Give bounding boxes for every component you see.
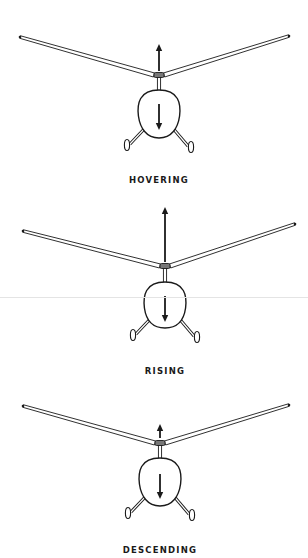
wheel-left-icon <box>124 140 129 151</box>
wheel-left-icon <box>130 330 135 341</box>
lift-arrow-up-icon-head <box>157 424 163 431</box>
lift-arrow-up-icon-head <box>156 44 162 51</box>
rotor-blade-left <box>23 405 156 445</box>
rotor-blade-left <box>20 36 155 77</box>
rotor-hub <box>154 73 164 78</box>
wheel-left-icon <box>125 508 130 519</box>
caption-descending: DESCENDING <box>6 545 308 555</box>
helicopter-rising <box>22 207 297 343</box>
rotor-blade-left <box>23 230 161 268</box>
scan-artifact-line <box>0 297 308 298</box>
rotor-blade-left-tip <box>22 405 25 408</box>
rotor-mast <box>163 268 166 283</box>
rotor-blade-right <box>169 223 295 268</box>
rotor-mast <box>157 77 160 91</box>
rotor-mast <box>158 445 161 459</box>
wheel-right-icon <box>188 142 193 153</box>
rotor-blade-right <box>163 35 289 77</box>
rotor-blade-right-tip <box>288 35 291 38</box>
rotor-blade-right-tip <box>294 223 297 226</box>
lift-arrow-up-icon-head <box>162 207 168 214</box>
caption-hovering: HOVERING <box>5 175 308 185</box>
wheel-right-icon <box>194 332 199 343</box>
helicopter-hovering <box>19 35 291 153</box>
rotor-blade-right-tip <box>288 404 291 407</box>
rotor-hub <box>160 264 170 269</box>
helicopter-descending <box>22 404 291 521</box>
rotor-blade-left-tip <box>22 230 25 233</box>
caption-rising: RISING <box>11 366 308 376</box>
diagram-canvas <box>0 0 308 558</box>
rotor-blade-right <box>164 404 289 445</box>
rotor-blade-left-tip <box>19 36 22 39</box>
wheel-right-icon <box>189 510 194 521</box>
rotor-hub <box>155 441 165 446</box>
